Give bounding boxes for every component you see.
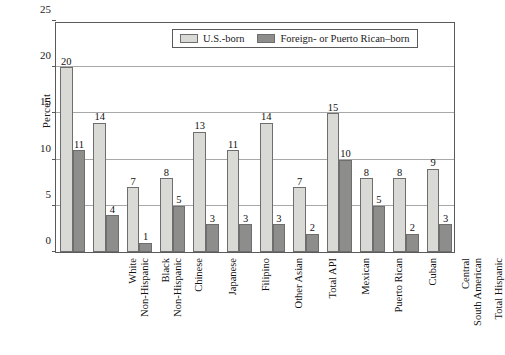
x-label-line: Japanese xyxy=(227,258,238,295)
y-tick-label: 25 xyxy=(11,3,51,15)
x-axis-label: Mexican xyxy=(360,258,372,355)
x-label-line: Cuban xyxy=(427,258,438,285)
bar: 10 xyxy=(339,160,352,252)
legend-label: Foreign- or Puerto Rican–born xyxy=(280,33,409,44)
x-label-line: South American xyxy=(472,258,484,355)
bar-value-label: 7 xyxy=(130,177,135,188)
y-tick-mark xyxy=(52,20,56,21)
bar: 3 xyxy=(439,224,452,252)
y-tick-mark xyxy=(52,205,56,206)
bar: 8 xyxy=(360,178,373,252)
bar-group: 93 xyxy=(427,23,452,252)
bar-value-label: 3 xyxy=(276,214,281,225)
bar: 1 xyxy=(139,243,152,252)
bar-value-label: 2 xyxy=(410,223,415,234)
y-tick-mark xyxy=(52,251,56,252)
bar-group: 71 xyxy=(127,23,152,252)
bar: 14 xyxy=(93,123,106,252)
bar-value-label: 14 xyxy=(261,112,272,123)
bar-value-label: 5 xyxy=(176,195,181,206)
bar-group: 143 xyxy=(260,23,285,252)
bar-group: 85 xyxy=(360,23,385,252)
x-axis-label: WhiteNon-Hispanic xyxy=(127,258,151,355)
bar-value-label: 20 xyxy=(61,57,72,68)
y-tick-label: 10 xyxy=(11,142,51,154)
y-tick-label: 15 xyxy=(11,95,51,107)
legend-swatch-icon xyxy=(180,34,198,43)
y-tick-mark xyxy=(52,159,56,160)
x-axis-label: Japanese xyxy=(227,258,239,355)
bar-group: 144 xyxy=(93,23,118,252)
x-axis-label: Total API xyxy=(327,258,339,355)
bar-group: 133 xyxy=(193,23,218,252)
x-label-line: Filipino xyxy=(260,258,271,291)
x-axis-label: Filipino xyxy=(260,258,272,355)
x-label-line: Black xyxy=(160,258,171,283)
bar: 15 xyxy=(327,113,340,252)
bar-value-label: 11 xyxy=(228,140,238,151)
bar: 20 xyxy=(60,67,73,252)
bar: 4 xyxy=(106,215,119,252)
bar: 2 xyxy=(306,234,319,252)
y-tick-mark xyxy=(52,112,56,113)
y-axis-title: Percent xyxy=(40,71,52,151)
x-label-line: White xyxy=(127,258,138,284)
bar-value-label: 3 xyxy=(243,214,248,225)
bar: 7 xyxy=(127,187,140,252)
x-axis-label: Cuban xyxy=(427,258,439,355)
bar-value-label: 4 xyxy=(110,205,115,216)
plot-area: 0510152025 20111447185133113143721510858… xyxy=(55,22,455,253)
bar: 11 xyxy=(73,150,86,252)
bar: 5 xyxy=(373,206,386,252)
bar: 7 xyxy=(293,187,306,252)
x-label-line: Total API xyxy=(327,258,338,298)
x-label-line: Non-Hispanic xyxy=(139,258,151,355)
bar-value-label: 15 xyxy=(328,103,339,114)
x-axis-label: BlackNon-Hispanic xyxy=(160,258,184,355)
bar-group: 1510 xyxy=(327,23,352,252)
bar: 13 xyxy=(193,132,206,252)
x-axis-label: Other Asian xyxy=(293,258,305,355)
x-axis-label: Puerto Rican xyxy=(393,258,405,355)
bar-group: 2011 xyxy=(60,23,85,252)
x-label-line: Total Hispanic xyxy=(493,258,504,319)
x-label-line: Chinese xyxy=(193,258,204,292)
legend-swatch-icon xyxy=(257,34,275,43)
bar: 9 xyxy=(427,169,440,252)
bar: 3 xyxy=(239,224,252,252)
x-label-line: Other Asian xyxy=(293,258,304,308)
bar: 5 xyxy=(173,206,186,252)
bar-group: 72 xyxy=(293,23,318,252)
x-axis-label: Total Hispanic xyxy=(493,258,505,355)
y-tick-label: 0 xyxy=(11,234,51,246)
legend-label: U.S.-born xyxy=(203,33,244,44)
x-label-line: Mexican xyxy=(360,258,371,295)
bar-value-label: 8 xyxy=(397,168,402,179)
bar: 11 xyxy=(227,150,240,252)
bar: 8 xyxy=(160,178,173,252)
bar-value-label: 7 xyxy=(297,177,302,188)
bar: 14 xyxy=(260,123,273,252)
bar: 3 xyxy=(206,224,219,252)
x-label-line: Non-Hispanic xyxy=(172,258,184,355)
bar-value-label: 8 xyxy=(164,168,169,179)
bar-value-label: 14 xyxy=(94,112,105,123)
bar-value-label: 2 xyxy=(310,223,315,234)
bar-group: 82 xyxy=(393,23,418,252)
bar-value-label: 8 xyxy=(364,168,369,179)
bar: 8 xyxy=(393,178,406,252)
bar-value-label: 13 xyxy=(194,121,205,132)
y-tick-mark xyxy=(52,66,56,67)
y-tick-label: 5 xyxy=(11,188,51,200)
bar-value-label: 10 xyxy=(340,149,351,160)
y-tick-label: 20 xyxy=(11,49,51,61)
bar: 2 xyxy=(406,234,419,252)
legend-item-foreign-born: Foreign- or Puerto Rican–born xyxy=(257,33,409,44)
bar-group: 85 xyxy=(160,23,185,252)
bar-value-label: 11 xyxy=(74,140,84,151)
x-axis-label: CentralSouth American xyxy=(460,258,484,355)
legend: U.S.-born Foreign- or Puerto Rican–born xyxy=(172,29,418,48)
x-axis-label: Chinese xyxy=(193,258,205,355)
bar-value-label: 5 xyxy=(376,195,381,206)
